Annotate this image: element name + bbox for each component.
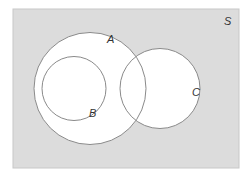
universe-label-s: S <box>224 15 232 27</box>
set-a-label: A <box>106 33 114 45</box>
set-c-label: C <box>192 86 200 98</box>
set-b-label: B <box>89 107 96 119</box>
venn-diagram: S A B C <box>0 0 249 180</box>
